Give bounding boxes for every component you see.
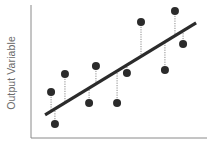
data-point xyxy=(123,69,131,77)
data-point xyxy=(92,62,100,70)
data-point xyxy=(137,18,145,26)
regression-scatter-plot xyxy=(0,0,215,146)
data-point xyxy=(51,120,59,128)
data-point xyxy=(85,99,93,107)
data-point xyxy=(47,88,55,96)
data-point xyxy=(161,66,169,74)
data-point xyxy=(61,70,69,78)
data-point xyxy=(179,40,187,48)
data-points xyxy=(47,7,187,128)
data-point xyxy=(171,7,179,15)
data-point xyxy=(113,99,121,107)
